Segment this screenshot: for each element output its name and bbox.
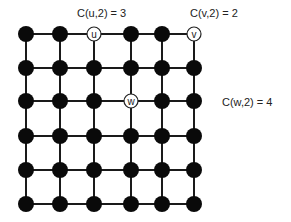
node (86, 196, 102, 212)
node (18, 60, 34, 76)
node (186, 196, 202, 212)
node (86, 128, 102, 144)
node (52, 162, 68, 178)
annotation-c-w: C(w,2) = 4 (222, 96, 272, 108)
node (154, 128, 170, 144)
node (123, 196, 139, 212)
node-label-w: w (126, 96, 135, 107)
grid-edges (26, 34, 194, 204)
node-label-u: u (91, 29, 97, 40)
node (18, 93, 34, 109)
annotations: C(u,2) = 3 C(v,2) = 2 C(w,2) = 4 (77, 7, 272, 108)
node (52, 196, 68, 212)
node (154, 93, 170, 109)
node (123, 128, 139, 144)
node (186, 162, 202, 178)
node (18, 26, 34, 42)
node (52, 93, 68, 109)
node (154, 196, 170, 212)
node (18, 128, 34, 144)
node (86, 60, 102, 76)
annotation-c-v: C(v,2) = 2 (190, 7, 238, 19)
node (123, 60, 139, 76)
node (18, 196, 34, 212)
node (18, 162, 34, 178)
node (86, 162, 102, 178)
node (123, 26, 139, 42)
diagram-canvas: uvw C(u,2) = 3 C(v,2) = 2 C(w,2) = 4 (0, 0, 291, 222)
node (86, 93, 102, 109)
grid-graph-diagram: uvw C(u,2) = 3 C(v,2) = 2 C(w,2) = 4 (0, 0, 291, 222)
annotation-c-u: C(u,2) = 3 (77, 7, 126, 19)
node-label-v: v (192, 29, 197, 40)
grid-nodes: uvw (18, 26, 202, 212)
node (186, 93, 202, 109)
node (186, 60, 202, 76)
node (52, 128, 68, 144)
node (154, 26, 170, 42)
node (186, 128, 202, 144)
node (123, 162, 139, 178)
node (52, 60, 68, 76)
node (154, 60, 170, 76)
node (52, 26, 68, 42)
node (154, 162, 170, 178)
